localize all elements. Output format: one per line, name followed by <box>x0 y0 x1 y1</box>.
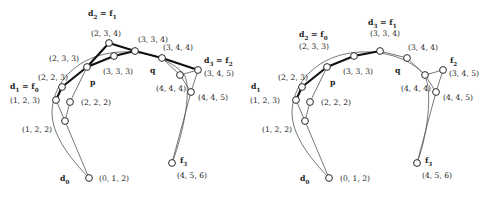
node-2-2-2[interactable] <box>307 99 314 106</box>
highlighted-path-edge <box>135 51 162 58</box>
label-d3-eq-f2: d3 = f2 <box>204 57 233 67</box>
node-4-4-4-label: (4, 4, 4) <box>401 85 431 93</box>
node-3-3-4[interactable] <box>132 48 139 55</box>
node-0-1-2[interactable] <box>86 175 93 182</box>
node-2-2-3[interactable] <box>59 84 66 91</box>
node-3-4-5[interactable] <box>440 67 447 74</box>
node-0-1-2-label: (0, 1, 2) <box>340 175 370 183</box>
label-d0: d0 <box>60 175 69 185</box>
node-2-2-2[interactable] <box>67 99 74 106</box>
node-4-4-5-label: (4, 4, 5) <box>443 94 473 102</box>
node-2-3-4-label: (2, 3, 4) <box>91 30 121 38</box>
node-4-5-6[interactable] <box>169 160 176 167</box>
label-q: q <box>395 67 400 75</box>
graph-edge <box>380 51 407 58</box>
node-3-3-3[interactable] <box>111 53 118 60</box>
label-p: p <box>330 79 335 87</box>
label-f3: f3 <box>425 157 432 167</box>
label-d1: d1 <box>251 83 260 93</box>
node-2-2-3[interactable] <box>299 84 306 91</box>
highlighted-path-edge <box>162 58 198 70</box>
graph-edge <box>70 67 87 102</box>
node-1-2-2-label: (1, 2, 2) <box>22 126 52 134</box>
node-2-2-2-label: (2, 2, 2) <box>81 99 111 107</box>
label-q: q <box>150 67 155 75</box>
node-2-3-3[interactable] <box>84 64 91 71</box>
node-1-2-3-label: (1, 2, 3) <box>10 97 40 105</box>
diagram-canvas <box>0 0 495 197</box>
highlighted-path-edge <box>327 56 354 67</box>
label-d2-eq-f1: d2 = f1 <box>88 10 117 20</box>
node-4-4-5[interactable] <box>433 89 440 96</box>
node-0-1-2-label: (0, 1, 2) <box>99 175 129 183</box>
graph-edge <box>417 92 436 163</box>
node-3-4-5-label: (3, 4, 5) <box>449 70 479 78</box>
node-2-3-3-label: (2, 3, 3) <box>49 55 79 63</box>
node-3-4-5-label: (3, 4, 5) <box>204 70 234 78</box>
graph-edge <box>65 121 89 178</box>
node-1-2-3[interactable] <box>293 97 300 104</box>
label-d1-eq-f0: d1 = f0 <box>10 83 39 93</box>
diagram-figure: (0, 1, 2)(1, 2, 2)(1, 2, 3)(2, 2, 2)(2, … <box>0 0 495 197</box>
node-3-4-5[interactable] <box>195 67 202 74</box>
node-2-2-3-label: (2, 2, 3) <box>278 74 308 82</box>
node-2-3-4[interactable] <box>106 40 113 47</box>
label-d0: d0 <box>300 175 309 185</box>
node-1-2-2-label: (1, 2, 2) <box>262 126 292 134</box>
node-2-3-3-label: (2, 3, 3) <box>299 43 329 51</box>
node-2-2-2-label: (2, 2, 2) <box>321 99 351 107</box>
node-4-5-6[interactable] <box>414 160 421 167</box>
node-3-3-3-label: (3, 3, 3) <box>103 68 133 76</box>
node-1-2-3-label: (1, 2, 3) <box>250 97 280 105</box>
node-3-3-3-label: (3, 3, 3) <box>343 68 373 76</box>
node-3-3-3[interactable] <box>351 53 358 60</box>
node-4-4-5[interactable] <box>188 89 195 96</box>
node-1-2-3[interactable] <box>53 97 60 104</box>
node-3-4-4-label: (3, 4, 4) <box>163 44 193 52</box>
node-2-3-3[interactable] <box>324 64 331 71</box>
node-4-5-6-label: (4, 5, 6) <box>177 172 207 180</box>
node-4-4-4[interactable] <box>422 72 429 79</box>
node-3-4-4[interactable] <box>404 55 411 62</box>
graph-edge <box>305 121 329 178</box>
graph-edge <box>310 67 327 102</box>
label-d3-eq-f1: d3 = f1 <box>368 19 397 29</box>
node-3-4-4[interactable] <box>159 55 166 62</box>
label-p: p <box>90 79 95 87</box>
node-3-4-4-label: (3, 4, 4) <box>408 44 438 52</box>
label-f3: f3 <box>180 157 187 167</box>
node-4-4-5-label: (4, 4, 5) <box>198 94 228 102</box>
node-4-5-6-label: (4, 5, 6) <box>422 172 452 180</box>
label-f2: f2 <box>450 57 457 67</box>
label-d2-eq-f0: d2 = f0 <box>299 31 328 41</box>
node-3-3-4[interactable] <box>377 48 384 55</box>
node-4-4-4-label: (4, 4, 4) <box>156 85 186 93</box>
node-0-1-2[interactable] <box>326 175 333 182</box>
node-1-2-2[interactable] <box>302 118 309 125</box>
node-3-3-4-label: (3, 3, 4) <box>370 30 400 38</box>
node-4-4-4[interactable] <box>177 72 184 79</box>
graph-edge <box>172 92 191 163</box>
highlighted-path-edge <box>109 43 135 51</box>
node-1-2-2[interactable] <box>62 118 69 125</box>
node-2-2-3-label: (2, 2, 3) <box>38 74 68 82</box>
